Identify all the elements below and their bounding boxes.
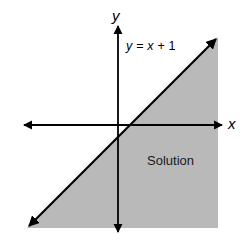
solution-region-label: Solution — [147, 154, 194, 167]
linear-inequality-figure: y x y = x + 1 Solution — [0, 0, 247, 243]
x-axis-label: x — [228, 116, 236, 131]
graph-canvas — [0, 0, 247, 243]
equation-rhs-constant: + 1 — [154, 39, 176, 53]
y-axis-label: y — [112, 8, 120, 23]
equation-relation: = — [132, 39, 147, 53]
line-equation-label: y = x + 1 — [126, 40, 176, 53]
